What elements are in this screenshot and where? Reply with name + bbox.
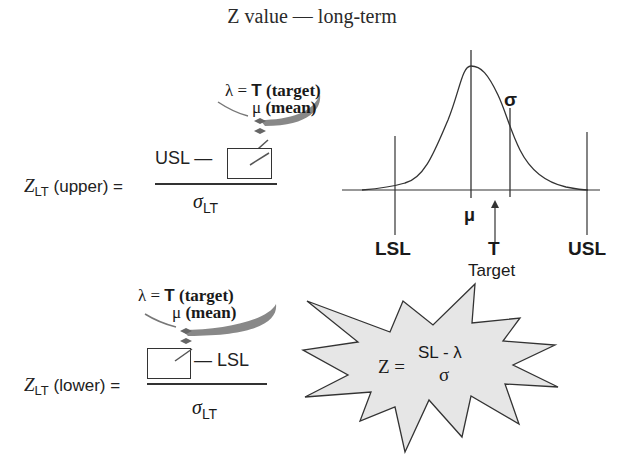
starburst-denominator: σ [439,364,449,386]
starburst-z-equals: Z = [378,356,405,378]
starburst-shape [0,0,624,471]
starburst-numerator: SL - λ [418,343,462,363]
